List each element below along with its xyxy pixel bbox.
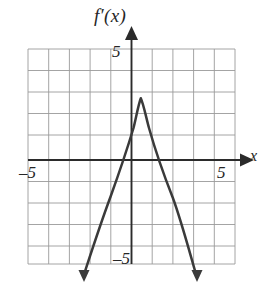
curve-title-label: f′(x) xyxy=(94,6,126,25)
y-tick-label-5: 5 xyxy=(112,43,121,60)
y-tick-label-negative-5: –5 xyxy=(113,250,130,267)
curve-left-arrowhead xyxy=(79,270,90,282)
graph-figure: f′(x) 5 –5 –5 5 x xyxy=(0,0,268,284)
y-axis-arrowhead xyxy=(125,26,138,40)
x-tick-label-negative-5: –5 xyxy=(19,164,36,181)
plot-area xyxy=(0,0,268,284)
curve-right-arrowhead xyxy=(192,270,203,282)
x-axis-name-label: x xyxy=(250,148,257,164)
x-tick-label-5: 5 xyxy=(217,164,226,181)
function-curve xyxy=(79,98,203,282)
